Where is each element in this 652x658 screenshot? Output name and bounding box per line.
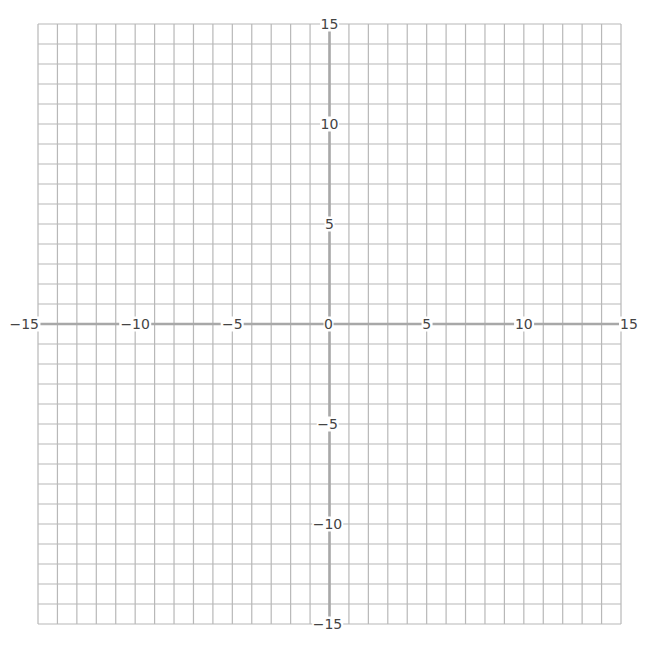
y-axis-label: −15 bbox=[312, 617, 344, 632]
y-axis-label: 5 bbox=[324, 217, 335, 232]
x-axis-label: 15 bbox=[619, 317, 639, 332]
x-axis-label: 10 bbox=[514, 317, 534, 332]
x-axis-label: −15 bbox=[8, 317, 40, 332]
x-axis-label: −5 bbox=[221, 317, 244, 332]
x-axis-label: −10 bbox=[119, 317, 151, 332]
x-axis-label: 0 bbox=[323, 317, 334, 332]
y-axis-label: 10 bbox=[320, 117, 340, 132]
y-axis-label: −10 bbox=[312, 517, 344, 532]
y-axis-label: 15 bbox=[320, 17, 340, 32]
x-axis-label: 5 bbox=[421, 317, 432, 332]
coordinate-plane: −15−10−505101515105−5−10−15 bbox=[0, 0, 652, 658]
y-axis-label: −5 bbox=[316, 417, 339, 432]
